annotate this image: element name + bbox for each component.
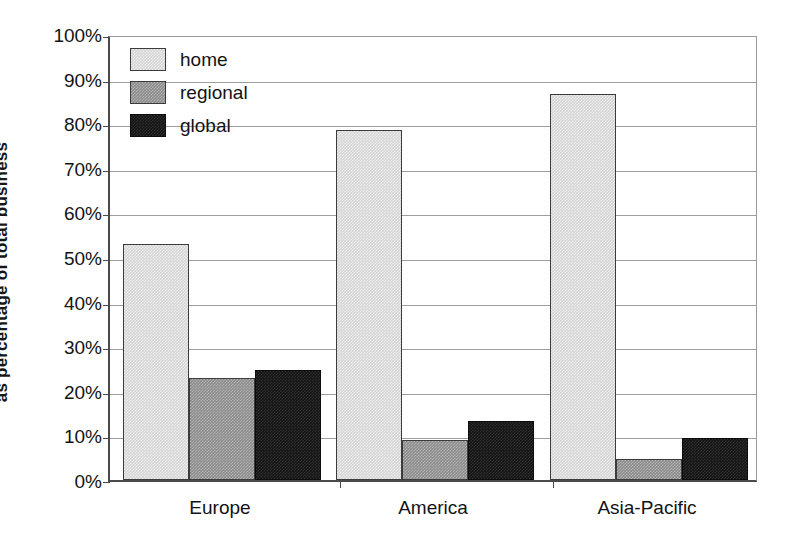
bar-home-america[interactable] bbox=[336, 130, 402, 480]
bar-regional-america[interactable] bbox=[402, 440, 468, 480]
y-tick-label: 0% bbox=[30, 471, 102, 493]
y-tick-mark bbox=[103, 349, 110, 350]
category-label-europe: Europe bbox=[189, 497, 250, 519]
bar-home-asia-pacific[interactable] bbox=[550, 94, 616, 480]
bar-global-america[interactable] bbox=[468, 421, 534, 480]
y-tick-mark bbox=[103, 305, 110, 306]
bar-chart: as percentage of total business 0%10%20%… bbox=[0, 0, 790, 544]
y-tick-label: 10% bbox=[30, 426, 102, 448]
bar-regional-europe[interactable] bbox=[189, 378, 255, 480]
legend-item-home[interactable]: home bbox=[130, 43, 248, 76]
y-tick-mark bbox=[103, 126, 110, 127]
y-tick-label: 80% bbox=[30, 114, 102, 136]
y-tick-mark bbox=[103, 37, 110, 38]
legend-swatch-regional bbox=[130, 81, 166, 104]
legend-item-regional[interactable]: regional bbox=[130, 76, 248, 109]
bar-global-asia-pacific[interactable] bbox=[682, 438, 748, 480]
legend-swatch-home bbox=[130, 48, 166, 71]
y-tick-label: 30% bbox=[30, 337, 102, 359]
gridline bbox=[110, 305, 756, 306]
gridline bbox=[110, 215, 756, 216]
y-tick-label: 100% bbox=[30, 25, 102, 47]
y-tick-mark bbox=[103, 394, 110, 395]
y-tick-label: 70% bbox=[30, 159, 102, 181]
legend-label-regional: regional bbox=[180, 82, 248, 104]
y-tick-label: 20% bbox=[30, 382, 102, 404]
legend: home regional global bbox=[130, 43, 248, 142]
category-label-america: America bbox=[398, 497, 468, 519]
y-tick-label: 50% bbox=[30, 248, 102, 270]
y-tick-label: 60% bbox=[30, 203, 102, 225]
y-tick-mark bbox=[103, 215, 110, 216]
gridline bbox=[110, 260, 756, 261]
legend-label-home: home bbox=[180, 49, 228, 71]
bar-global-europe[interactable] bbox=[255, 370, 321, 480]
y-tick-mark bbox=[103, 171, 110, 172]
y-tick-mark bbox=[103, 82, 110, 83]
legend-label-global: global bbox=[180, 115, 231, 137]
legend-item-global[interactable]: global bbox=[130, 109, 248, 142]
legend-swatch-global bbox=[130, 114, 166, 137]
plot-area: home regional global bbox=[108, 36, 757, 482]
y-tick-mark bbox=[103, 438, 110, 439]
y-tick-label: 40% bbox=[30, 293, 102, 315]
y-tick-label: 90% bbox=[30, 70, 102, 92]
bar-home-europe[interactable] bbox=[123, 244, 189, 480]
gridline bbox=[110, 349, 756, 350]
bar-regional-asia-pacific[interactable] bbox=[616, 459, 682, 480]
category-label-asia-pacific: Asia-Pacific bbox=[597, 497, 696, 519]
gridline bbox=[110, 171, 756, 172]
y-tick-mark bbox=[103, 260, 110, 261]
y-axis-tick-labels: 0%10%20%30%40%50%60%70%80%90%100% bbox=[28, 0, 102, 544]
y-tick-mark bbox=[103, 482, 110, 483]
category-separator-tick bbox=[553, 480, 554, 488]
category-separator-tick bbox=[340, 480, 341, 488]
